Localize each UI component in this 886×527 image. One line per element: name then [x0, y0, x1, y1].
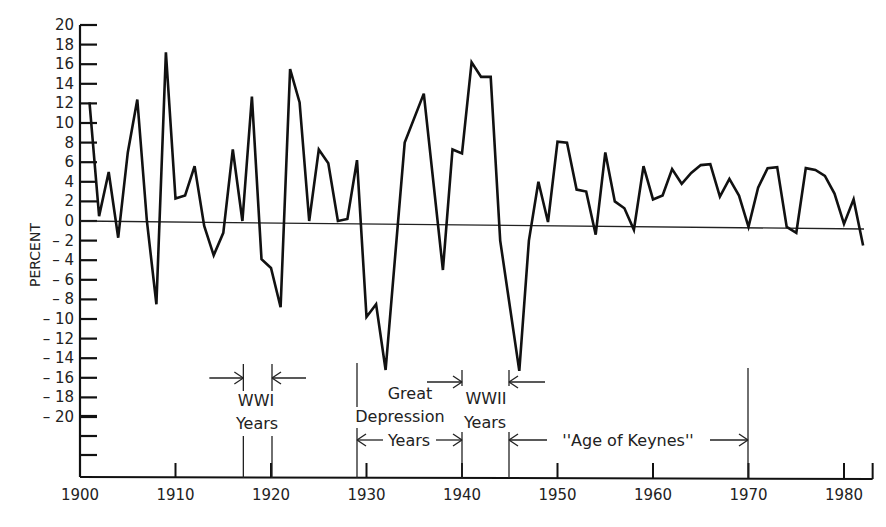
y-tick-label: 10 [55, 114, 74, 132]
y-tick-label: – 4 [52, 251, 74, 269]
marker-line [453, 434, 462, 440]
marker-line [509, 434, 518, 440]
y-tick-label: 2 [64, 192, 74, 210]
wwi-label: WWI [238, 391, 274, 410]
age-of-keynes-label: ''Age of Keynes'' [562, 431, 693, 450]
y-axis-ticks: 20181614121086420– 2– 4– 6– 8– 10– 12– 1… [43, 16, 97, 455]
marker-line [509, 440, 518, 446]
y-tick-label: 18 [55, 36, 74, 54]
great-label: Great [388, 384, 433, 403]
y-tick-label: – 20 [43, 408, 74, 426]
x-tick-label: 1910 [156, 486, 194, 504]
marker-line [453, 382, 462, 388]
y-tick-label: – 16 [43, 369, 74, 387]
marker-line [272, 378, 281, 384]
y-tick-label: 20 [55, 16, 74, 34]
marker-line [739, 434, 748, 440]
y-tick-label: 12 [55, 94, 74, 112]
wwii-label: WWII [465, 389, 506, 408]
axes [80, 25, 873, 479]
wwi-years-label: Years [235, 414, 278, 433]
y-tick-label: 8 [64, 134, 74, 152]
marker-line [272, 372, 281, 378]
y-tick-label: – 18 [43, 388, 74, 406]
marker-line [509, 376, 518, 382]
x-tick-label: 1980 [825, 486, 863, 504]
x-tick-label: 1920 [252, 486, 290, 504]
depression-label: Depression [355, 407, 444, 426]
marker-line [453, 376, 462, 382]
x-tick-label: 1970 [729, 486, 767, 504]
data-line [90, 52, 864, 371]
x-axis-ticks: 190019101920193019401950196019701980 [61, 463, 873, 504]
marker-line [357, 440, 366, 446]
y-tick-label: 6 [64, 153, 74, 171]
y-tick-label: – 14 [43, 349, 74, 367]
depression-years-label: Years [387, 431, 430, 450]
x-tick-label: 1940 [443, 486, 481, 504]
x-tick-label: 1960 [634, 486, 672, 504]
y-tick-label: 4 [64, 173, 74, 191]
y-tick-label: – 12 [43, 330, 74, 348]
marker-line [234, 372, 243, 378]
y-tick-label: 0 [64, 212, 74, 230]
y-tick-label: – 10 [43, 310, 74, 328]
period-annotations: WWI Years Great Depression Years WWII Ye… [235, 384, 694, 450]
marker-line [739, 440, 748, 446]
y-tick-label: – 6 [52, 271, 74, 289]
marker-line [357, 434, 366, 440]
line-chart: 20181614121086420– 2– 4– 6– 8– 10– 12– 1… [0, 0, 886, 527]
y-axis-label: PERCENT [27, 223, 43, 287]
marker-line [234, 378, 243, 384]
marker-line [453, 440, 462, 446]
y-tick-label: – 8 [52, 290, 74, 308]
wwii-years-label: Years [463, 413, 506, 432]
x-tick-label: 1900 [61, 486, 99, 504]
y-tick-label: – 2 [52, 232, 74, 250]
x-axis [80, 477, 873, 479]
x-tick-label: 1930 [347, 486, 385, 504]
y-tick-label: 16 [55, 55, 74, 73]
marker-line [509, 382, 518, 388]
y-tick-label: 14 [55, 75, 74, 93]
x-tick-label: 1950 [538, 486, 576, 504]
